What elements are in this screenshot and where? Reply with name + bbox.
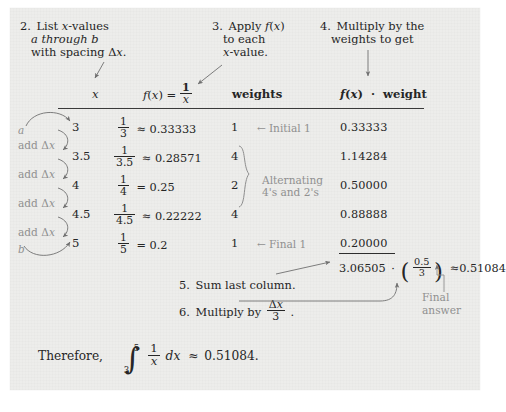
conclusion-statement: Therefore, ∫53 1 x dx ≈ 0.51084. xyxy=(38,343,259,371)
initial-1-note: ←Initial 1 xyxy=(257,122,311,134)
step-3-number: 3. xyxy=(212,19,223,33)
row-1-x: 3 xyxy=(72,121,79,134)
step-3-callout: 3. Apply f(x) to each x-value. xyxy=(212,20,285,59)
step-5-number: 5. xyxy=(179,278,190,292)
step-6-callout: 6. Multiply by Δx 3 . xyxy=(179,299,294,322)
row-2-product: 1.14284 xyxy=(340,150,387,163)
row-5-fraction: 15 = 0.2 xyxy=(118,232,168,255)
alternating-note: Alternating 4's and 2's xyxy=(262,174,323,198)
row-3-fraction: 14 = 0.25 xyxy=(118,174,175,197)
integral-lower-limit: 3 xyxy=(124,367,129,374)
sum-underline xyxy=(339,253,395,254)
step-2-line2: a through b xyxy=(31,32,99,46)
step-4-callout: 4. Multiply by the weights to get xyxy=(320,20,424,46)
step-6-period: . xyxy=(290,305,294,319)
final-answer-label: Final answer xyxy=(422,291,461,317)
a-label: a xyxy=(18,125,24,137)
add-dx-label-2: add Δx xyxy=(18,168,55,180)
one-over-x-fraction: 1 x xyxy=(180,82,192,106)
final-1-note: ←Final 1 xyxy=(257,238,306,250)
conclusion-approx: ≈ xyxy=(188,349,198,363)
dx-over-3-fraction: 0.5 3 xyxy=(413,257,430,277)
row-4-fraction: 14.5 ≈ 0.22222 xyxy=(114,203,202,226)
row-5-weight: 1 xyxy=(231,237,238,250)
step-4-line1: Multiply by the xyxy=(337,19,425,33)
step-3-line3: x-value. xyxy=(212,46,285,59)
add-dx-label-1: add Δx xyxy=(18,139,55,151)
row-3-weight: 2 xyxy=(231,179,238,192)
integral-upper-limit: 5 xyxy=(134,345,139,352)
step-4-line2: weights to get xyxy=(320,33,424,46)
step-2-number: 2. xyxy=(20,19,31,33)
row-1-weight: 1 xyxy=(231,121,238,134)
row-4-weight: 4 xyxy=(231,208,238,221)
delta-x-over-3-fraction: Δx 3 xyxy=(267,299,285,322)
result-approx: ≈ xyxy=(450,262,459,275)
step-2-line1: List x-values xyxy=(37,19,109,33)
row-3-x: 4 xyxy=(72,179,79,192)
step-4-number: 4. xyxy=(320,19,331,33)
row-4-x: 4.5 xyxy=(72,208,90,221)
step-3-line1: Apply f(x) xyxy=(229,19,285,33)
paren-open: ( xyxy=(401,263,410,279)
column-header-fx: f(x) = 1 x xyxy=(143,82,192,106)
column-header-product: f(x) · weight xyxy=(340,88,427,101)
paper-panel: 2. List x-values a through b with spacin… xyxy=(10,8,480,390)
row-2-x: 3.5 xyxy=(72,150,90,163)
fx-label: f xyxy=(143,88,147,102)
column-header-x: x xyxy=(92,88,99,101)
paren-close: ) xyxy=(434,263,443,279)
row-1-fraction: 13 ≈ 0.33333 xyxy=(118,116,196,139)
step-6-number: 6. xyxy=(179,305,190,319)
table-header-rule xyxy=(58,108,424,109)
add-dx-label-4: add Δx xyxy=(18,226,55,238)
step-5-text: Sum last column. xyxy=(196,278,296,292)
left-arrow-icon: ← xyxy=(257,238,266,250)
add-dx-label-3: add Δx xyxy=(18,197,55,209)
result-sum: 3.06505 xyxy=(339,262,386,275)
column-header-weights: weights xyxy=(232,88,282,101)
step-2-line3: with spacing Δx. xyxy=(20,46,126,59)
integrand-fraction: 1 x xyxy=(148,343,159,368)
row-1-product: 0.33333 xyxy=(340,121,387,134)
result-expression: 3.06505 · ( 0.5 3 ) ≈0.51084 xyxy=(339,257,506,279)
conclusion-lead: Therefore, xyxy=(38,349,103,363)
row-4-product: 0.88888 xyxy=(340,208,387,221)
row-3-product: 0.50000 xyxy=(340,179,387,192)
row-2-weight: 4 xyxy=(231,150,238,163)
result-dot: · xyxy=(391,262,395,275)
row-5-product: 0.20000 xyxy=(340,237,387,250)
step-6-text: Multiply by xyxy=(196,305,262,319)
left-arrow-icon: ← xyxy=(257,122,266,134)
differential: dx xyxy=(166,349,181,363)
row-5-x: 5 xyxy=(72,237,79,250)
b-label: b xyxy=(18,244,25,256)
integral-icon: ∫53 xyxy=(125,347,141,371)
result-value: 0.51084 xyxy=(459,262,506,275)
conclusion-value: 0.51084. xyxy=(204,349,258,363)
row-2-fraction: 13.5 ≈ 0.28571 xyxy=(114,145,202,168)
step-2-callout: 2. List x-values a through b with spacin… xyxy=(20,20,126,59)
step-5-callout: 5. Sum last column. xyxy=(179,279,296,292)
